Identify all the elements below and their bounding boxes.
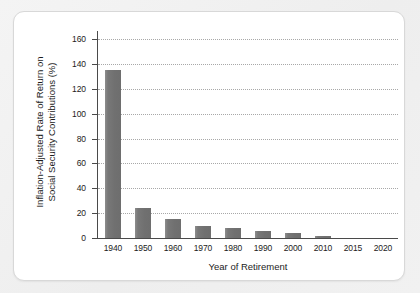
x-tick-label: 1990	[248, 243, 278, 253]
x-tick-label: 1940	[98, 243, 128, 253]
gridline	[98, 139, 398, 140]
y-tick-label: 0	[60, 233, 86, 243]
y-tick-label: 100	[60, 109, 86, 119]
y-axis-title-line-2: Social Security Contributions (%)	[46, 34, 58, 230]
bar	[135, 208, 152, 238]
chart-panel: Inflation-Adjusted Rate of Return on Soc…	[13, 11, 405, 281]
x-tick-label: 2000	[278, 243, 308, 253]
x-axis-line	[97, 238, 398, 239]
gridline	[98, 89, 398, 90]
gridline	[98, 64, 398, 65]
bar	[255, 231, 272, 238]
gridline	[98, 163, 398, 164]
x-tick-label: 1970	[188, 243, 218, 253]
y-tick-label: 40	[60, 183, 86, 193]
y-axis-title-line-1: Inflation-Adjusted Rate of Return on	[34, 34, 46, 230]
x-tick-label: 1980	[218, 243, 248, 253]
y-tick-label: 160	[60, 34, 86, 44]
bar	[105, 70, 122, 238]
y-tick-label: 120	[60, 84, 86, 94]
plot-area	[98, 39, 398, 238]
bar	[195, 226, 212, 238]
y-axis-line	[97, 31, 98, 239]
bar	[165, 219, 182, 238]
figure-background: Inflation-Adjusted Rate of Return on Soc…	[0, 0, 420, 293]
bar	[225, 228, 242, 238]
x-axis-title: Year of Retirement	[98, 261, 398, 272]
y-tick-label: 80	[60, 134, 86, 144]
gridline	[98, 114, 398, 115]
x-tick-label: 2020	[368, 243, 398, 253]
x-tick-label: 1960	[158, 243, 188, 253]
gridline	[98, 188, 398, 189]
y-tick-label: 140	[60, 59, 86, 69]
y-axis-title: Inflation-Adjusted Rate of Return on Soc…	[34, 34, 58, 230]
x-tick-label: 1950	[128, 243, 158, 253]
y-tick-label: 60	[60, 158, 86, 168]
y-tick-label: 20	[60, 208, 86, 218]
x-tick-label: 2010	[308, 243, 338, 253]
x-tick-label: 2015	[338, 243, 368, 253]
gridline	[98, 39, 398, 40]
